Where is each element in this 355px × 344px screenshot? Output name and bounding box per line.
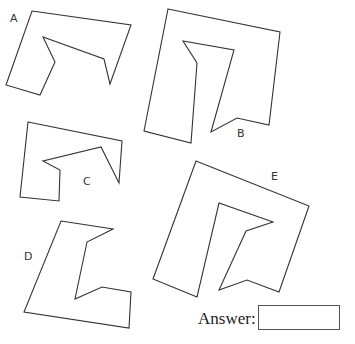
shape-d — [24, 221, 131, 328]
shape-label-b: B — [237, 127, 245, 140]
answer-label: Answer: — [198, 309, 256, 329]
shape-label-c: C — [83, 175, 91, 188]
shape-b — [144, 9, 280, 143]
shapes-canvas — [0, 0, 355, 344]
shape-e — [153, 161, 309, 297]
shape-label-d: D — [24, 250, 32, 263]
shape-label-a: A — [10, 12, 18, 25]
answer-input[interactable] — [258, 305, 340, 330]
shape-c — [20, 122, 122, 201]
shape-a — [6, 11, 131, 95]
shape-label-e: E — [271, 170, 278, 183]
